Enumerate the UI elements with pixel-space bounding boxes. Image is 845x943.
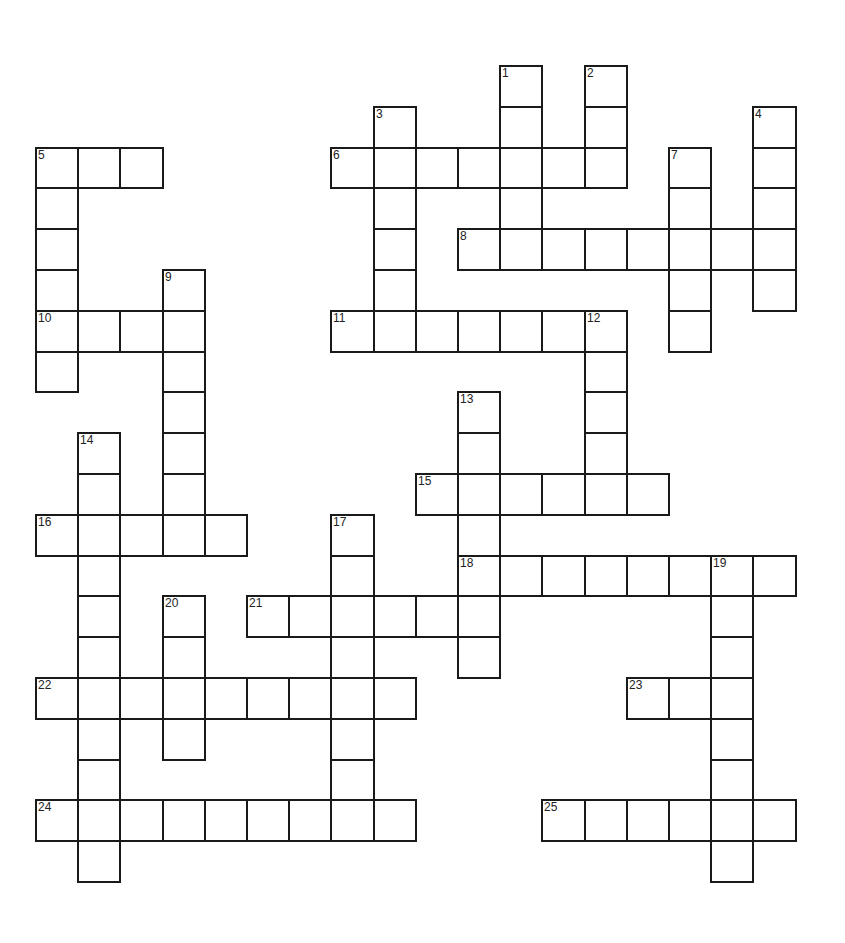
crossword-cell[interactable]: [584, 555, 628, 597]
crossword-cell[interactable]: [162, 391, 206, 434]
crossword-cell[interactable]: [668, 677, 712, 720]
crossword-cell[interactable]: [457, 310, 501, 353]
crossword-cell[interactable]: 20: [162, 595, 206, 638]
crossword-cell[interactable]: [668, 310, 712, 353]
crossword-cell[interactable]: [499, 106, 543, 149]
crossword-cell[interactable]: [626, 555, 670, 597]
crossword-cell[interactable]: [288, 799, 332, 842]
crossword-cell[interactable]: [626, 228, 670, 271]
crossword-cell[interactable]: [77, 677, 121, 720]
crossword-cell[interactable]: [373, 147, 417, 189]
crossword-cell[interactable]: [288, 595, 332, 638]
crossword-cell[interactable]: [35, 228, 79, 271]
crossword-cell[interactable]: [373, 310, 417, 353]
crossword-cell[interactable]: [584, 106, 628, 149]
crossword-cell[interactable]: 1: [499, 65, 543, 108]
crossword-cell[interactable]: 8: [457, 228, 501, 271]
crossword-cell[interactable]: 24: [35, 799, 79, 842]
crossword-cell[interactable]: [457, 473, 501, 516]
crossword-cell[interactable]: [584, 147, 628, 189]
crossword-cell[interactable]: [584, 228, 628, 271]
crossword-cell[interactable]: 23: [626, 677, 670, 720]
crossword-cell[interactable]: [77, 555, 121, 597]
crossword-cell[interactable]: [162, 799, 206, 842]
crossword-cell[interactable]: [457, 514, 501, 557]
crossword-cell[interactable]: [584, 473, 628, 516]
crossword-cell[interactable]: [752, 147, 797, 189]
crossword-cell[interactable]: [330, 555, 375, 597]
crossword-cell[interactable]: [373, 595, 417, 638]
crossword-cell[interactable]: [77, 636, 121, 679]
crossword-cell[interactable]: 6: [330, 147, 375, 189]
crossword-cell[interactable]: [77, 147, 121, 189]
crossword-cell[interactable]: 14: [77, 432, 121, 475]
crossword-cell[interactable]: [330, 595, 375, 638]
crossword-cell[interactable]: [246, 799, 290, 842]
crossword-cell[interactable]: [373, 799, 417, 842]
crossword-cell[interactable]: [668, 187, 712, 230]
crossword-cell[interactable]: [204, 799, 248, 842]
crossword-cell[interactable]: [204, 514, 248, 557]
crossword-cell[interactable]: 18: [457, 555, 501, 597]
crossword-cell[interactable]: [752, 555, 797, 597]
crossword-cell[interactable]: [584, 391, 628, 434]
crossword-cell[interactable]: [710, 799, 754, 842]
crossword-cell[interactable]: [162, 351, 206, 393]
crossword-cell[interactable]: [35, 269, 79, 312]
crossword-cell[interactable]: [457, 432, 501, 475]
crossword-cell[interactable]: [499, 228, 543, 271]
crossword-cell[interactable]: [119, 514, 164, 557]
crossword-cell[interactable]: [752, 799, 797, 842]
crossword-cell[interactable]: [246, 677, 290, 720]
crossword-cell[interactable]: [330, 799, 375, 842]
crossword-cell[interactable]: [710, 228, 754, 271]
crossword-cell[interactable]: [584, 799, 628, 842]
crossword-cell[interactable]: [77, 840, 121, 883]
crossword-cell[interactable]: [162, 514, 206, 557]
crossword-cell[interactable]: [330, 759, 375, 801]
crossword-cell[interactable]: [584, 351, 628, 393]
crossword-cell[interactable]: [119, 799, 164, 842]
crossword-cell[interactable]: [541, 473, 586, 516]
crossword-cell[interactable]: [499, 555, 543, 597]
crossword-cell[interactable]: [710, 840, 754, 883]
crossword-cell[interactable]: [541, 310, 586, 353]
crossword-cell[interactable]: [626, 473, 670, 516]
crossword-cell[interactable]: 2: [584, 65, 628, 108]
crossword-cell[interactable]: [668, 269, 712, 312]
crossword-cell[interactable]: [668, 228, 712, 271]
crossword-cell[interactable]: 7: [668, 147, 712, 189]
crossword-cell[interactable]: 22: [35, 677, 79, 720]
crossword-cell[interactable]: 3: [373, 106, 417, 149]
crossword-cell[interactable]: [499, 473, 543, 516]
crossword-cell[interactable]: [77, 759, 121, 801]
crossword-cell[interactable]: [35, 187, 79, 230]
crossword-cell[interactable]: [584, 432, 628, 475]
crossword-cell[interactable]: [77, 310, 121, 353]
crossword-cell[interactable]: [499, 310, 543, 353]
crossword-cell[interactable]: [330, 636, 375, 679]
crossword-cell[interactable]: 11: [330, 310, 375, 353]
crossword-cell[interactable]: [119, 147, 164, 189]
crossword-cell[interactable]: [752, 269, 797, 312]
crossword-cell[interactable]: [415, 147, 459, 189]
crossword-cell[interactable]: [162, 473, 206, 516]
crossword-cell[interactable]: [162, 677, 206, 720]
crossword-cell[interactable]: [119, 310, 164, 353]
crossword-cell[interactable]: 21: [246, 595, 290, 638]
crossword-cell[interactable]: [710, 677, 754, 720]
crossword-cell[interactable]: [626, 799, 670, 842]
crossword-cell[interactable]: [373, 269, 417, 312]
crossword-cell[interactable]: 17: [330, 514, 375, 557]
crossword-cell[interactable]: [162, 636, 206, 679]
crossword-cell[interactable]: [162, 310, 206, 353]
crossword-cell[interactable]: 25: [541, 799, 586, 842]
crossword-cell[interactable]: [77, 718, 121, 761]
crossword-cell[interactable]: [77, 799, 121, 842]
crossword-cell[interactable]: [330, 677, 375, 720]
crossword-cell[interactable]: [162, 718, 206, 761]
crossword-cell[interactable]: [541, 147, 586, 189]
crossword-cell[interactable]: [35, 351, 79, 393]
crossword-cell[interactable]: [373, 187, 417, 230]
crossword-cell[interactable]: [77, 595, 121, 638]
